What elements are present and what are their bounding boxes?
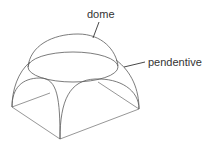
arch-front-left [12, 78, 60, 139]
dome-leader-line [93, 22, 99, 38]
dome [28, 34, 118, 82]
dome-pendentive-diagram: dome pendentive [0, 0, 210, 151]
base-edge-front-left [12, 107, 60, 139]
base-square [12, 82, 139, 139]
dome-label: dome [87, 8, 115, 20]
arches [12, 60, 139, 139]
pendentive-edge-left [12, 62, 30, 107]
base-edge-back-left [12, 93, 50, 107]
base-edge-front-right [60, 109, 139, 139]
base-edge-back-right [98, 82, 139, 109]
pendentive-leader-line [124, 62, 145, 67]
arch-front-right [60, 79, 139, 139]
dome-cap [28, 34, 118, 67]
pendentive-label: pendentive [148, 56, 202, 68]
dome-base-ellipse [28, 52, 118, 82]
